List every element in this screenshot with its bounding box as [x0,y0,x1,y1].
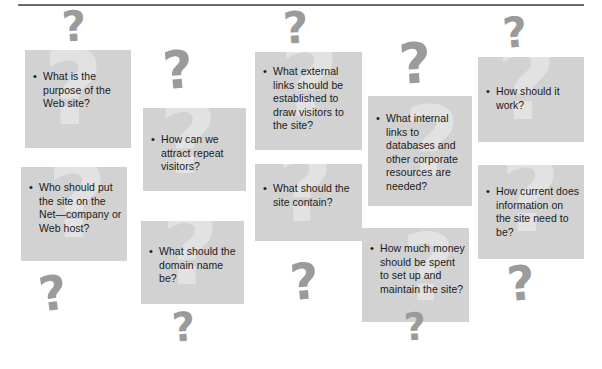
question-label: What external links should be establishe… [263,65,358,133]
question-label: How current does information on the site… [486,185,580,239]
question-text-block: •What should the domain name be? [149,245,239,286]
question-text-block: •How can we attract repeat visitors? [151,133,241,174]
question-box-currency: ?•How current does information on the si… [478,165,584,259]
question-text-block: •What is the purpose of the Web site? [33,70,125,111]
decorative-question-mark-icon: ? [282,9,309,45]
question-text-block: •How should it work? [486,85,578,112]
decorative-question-mark-icon: ? [397,41,433,88]
question-label: Who should put the site on the Net—compa… [29,181,123,235]
question-label: What is the purpose of the Web site? [33,70,125,111]
question-text-block: •What should the site contain? [263,182,353,209]
question-label: How can we attract repeat visitors? [151,133,241,174]
question-label: What internal links to databases and oth… [376,112,468,193]
question-text-block: •What internal links to databases and ot… [376,112,468,193]
question-label: How much money should be spent to set up… [370,242,465,296]
question-label: How should it work? [486,85,578,112]
question-text-block: •What external links should be establish… [263,65,358,133]
decorative-question-mark-icon: ? [288,261,320,303]
question-box-domain-name: ?•What should the domain name be? [141,221,244,304]
question-figure: ?•What is the purpose of the Web site??•… [0,0,602,369]
question-text-block: •How much money should be spent to set u… [370,242,465,296]
decorative-question-mark-icon: ? [36,272,69,314]
question-box-how-work: ?•How should it work? [478,57,584,142]
decorative-question-mark-icon: ? [171,310,196,344]
question-box-repeat-visitors: ?•How can we attract repeat visitors? [143,108,246,191]
question-box-host: ?•Who should put the site on the Net—com… [21,167,127,261]
decorative-question-mark-icon: ? [505,263,536,304]
question-label: What should the site contain? [263,182,353,209]
decorative-question-mark-icon: ? [161,49,195,93]
question-box-purpose: ?•What is the purpose of the Web site? [25,50,131,148]
question-text-block: •How current does information on the sit… [486,185,580,239]
question-box-internal-links: ?•What internal links to databases and o… [368,96,472,206]
question-box-external-links: ?•What external links should be establis… [255,52,362,150]
question-label: What should the domain name be? [149,245,239,286]
question-text-block: •Who should put the site on the Net—comp… [29,181,123,235]
question-box-site-contain: ?•What should the site contain? [255,164,362,241]
question-box-budget: ?•How much money should be spent to set … [362,228,469,322]
decorative-question-mark-icon: ? [61,9,88,44]
page-top-rule [18,4,584,6]
decorative-question-mark-icon: ? [501,15,529,51]
